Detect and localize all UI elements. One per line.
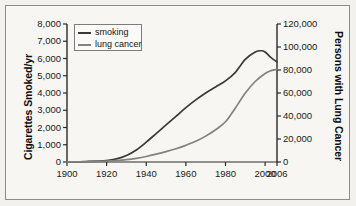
y-axis-label-right: Persons with Lung Cancer [333,31,345,161]
tick-label: 4,000 [23,88,61,98]
tick-label: 6,000 [23,54,61,64]
chart-legend: smoking lung cancer [74,24,142,51]
chart-figure: Cigarettes Smoked/yr Persons with Lung C… [0,0,356,206]
legend-swatch-smoking [78,32,91,34]
tick-label: 80,000 [283,65,329,75]
tick-label: 0 [23,157,61,167]
legend-swatch-lung-cancer [78,44,91,46]
tick-label: 1960 [167,169,205,179]
tick-label: 5,000 [23,71,61,81]
tick-label: 1900 [48,169,86,179]
tick-label: 1,000 [23,140,61,150]
tick-label: 1920 [88,169,126,179]
tick-label: 2,000 [23,123,61,133]
tick-label: 8,000 [23,19,61,29]
tick-label: 1940 [127,169,165,179]
tick-label: 60,000 [283,88,329,98]
tick-label: 100,000 [283,42,329,52]
legend-item-smoking: smoking [78,27,138,38]
legend-item-lung-cancer: lung cancer [78,39,138,50]
tick-label: 0 [283,157,329,167]
tick-label: 1980 [206,169,244,179]
tick-label: 3,000 [23,105,61,115]
tick-label: 20,000 [283,134,329,144]
tick-label: 2006 [258,169,296,179]
tick-label: 7,000 [23,36,61,46]
tick-label: 120,000 [283,19,329,29]
tick-label: 40,000 [283,111,329,121]
legend-label-smoking: smoking [95,28,129,37]
legend-label-lung-cancer: lung cancer [95,40,142,49]
